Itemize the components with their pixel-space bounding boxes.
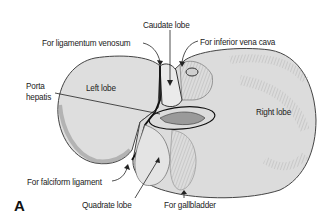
label-left-lobe: Left lobe	[86, 82, 116, 93]
label-right-lobe: Right lobe	[256, 106, 291, 117]
label-porta-hepatis-line2: hepatis	[26, 91, 51, 102]
label-inferior-vena-cava: For inferior vena cava	[200, 36, 275, 47]
panel-label: A	[14, 197, 25, 214]
liver-diagram: Caudate lobe For ligamentum venosum For …	[0, 0, 333, 223]
label-gallbladder: For gallbladder	[164, 199, 216, 210]
label-falciform-ligament: For falciform ligament	[27, 176, 102, 187]
ivc-opening	[186, 68, 198, 76]
label-ligamentum-venosum: For ligamentum venosum	[42, 37, 130, 48]
label-quadrate-lobe: Quadrate lobe	[82, 199, 132, 210]
label-porta-hepatis-line1: Porta	[26, 80, 45, 91]
label-caudate-lobe: Caudate lobe	[143, 19, 190, 30]
